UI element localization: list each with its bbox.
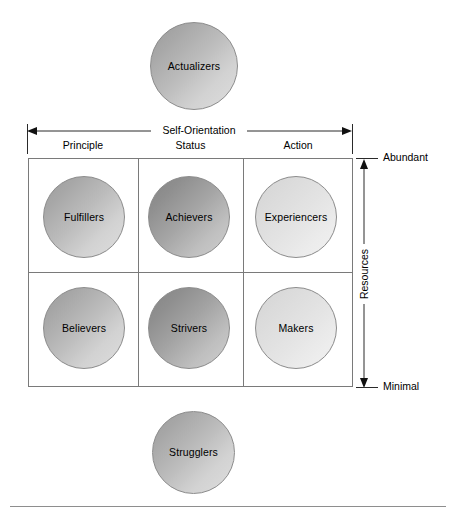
resources-axis-title: Resources — [354, 244, 374, 304]
segment-label-believers: Believers — [62, 323, 106, 334]
resources-tick-minimal — [356, 387, 378, 388]
segment-circle-believers: Believers — [43, 287, 125, 369]
segment-label-actualizers: Actualizers — [168, 61, 220, 72]
segment-circle-strivers: Strivers — [148, 287, 230, 369]
resources-orientation-matrix: Fulfillers Achievers Experiencers Believ… — [28, 158, 353, 387]
grid-divider-horizontal-1 — [29, 272, 352, 273]
segment-circle-fulfillers: Fulfillers — [43, 176, 125, 258]
segment-circle-experiencers: Experiencers — [255, 176, 337, 258]
column-header-principle: Principle — [28, 139, 138, 151]
segment-label-fulfillers: Fulfillers — [64, 212, 104, 223]
column-header-action: Action — [243, 139, 353, 151]
resources-label-abundant: Abundant — [383, 151, 428, 163]
footer-divider — [10, 506, 446, 507]
segment-label-strivers: Strivers — [171, 323, 207, 334]
segment-circle-actualizers: Actualizers — [150, 22, 238, 110]
resources-tick-abundant — [356, 158, 378, 159]
self-orientation-axis-title: Self-Orientation — [151, 124, 247, 136]
segment-label-achievers: Achievers — [165, 212, 212, 223]
segment-label-makers: Makers — [278, 323, 313, 334]
resources-label-minimal: Minimal — [383, 380, 419, 392]
vals-framework-diagram: Actualizers Self-Orientation Principle S… — [0, 0, 454, 525]
segment-circle-strugglers: Strugglers — [152, 411, 235, 494]
segment-label-strugglers: Strugglers — [169, 447, 218, 458]
segment-circle-makers: Makers — [255, 287, 337, 369]
segment-label-experiencers: Experiencers — [265, 212, 327, 223]
column-header-status: Status — [138, 139, 243, 151]
segment-circle-achievers: Achievers — [148, 176, 230, 258]
